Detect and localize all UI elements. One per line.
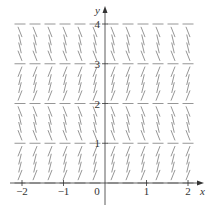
- x-tick-label: 1: [144, 185, 150, 197]
- x-tick-label: 2: [185, 185, 191, 197]
- y-tick-label: 3: [95, 58, 101, 70]
- y-axis-arrow-icon: [103, 6, 108, 13]
- x-tick-label: −1: [58, 185, 70, 197]
- y-axis-label: y: [94, 4, 100, 16]
- tick-labels: −2−10121234: [16, 18, 191, 197]
- x-axis-label: x: [199, 185, 205, 197]
- y-tick-label: 4: [95, 18, 101, 30]
- x-tick-label: −2: [16, 185, 28, 197]
- y-tick-label: 1: [95, 137, 101, 149]
- slope-field-chart: −2−10121234 x y: [0, 0, 214, 215]
- y-tick-label: 2: [95, 98, 101, 110]
- x-tick-label: 0: [94, 185, 100, 197]
